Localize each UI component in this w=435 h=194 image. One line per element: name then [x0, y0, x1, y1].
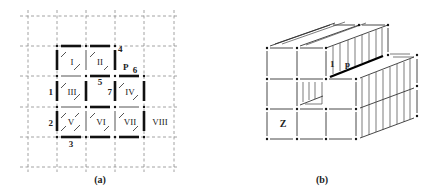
label-z: Z	[280, 118, 287, 129]
figure: I II III IV V VI VII VIII 1 2 3 4 5 6 7 …	[0, 0, 435, 194]
vertex-dots-b	[266, 24, 418, 140]
cell-label-VII: VII	[124, 117, 137, 127]
panel-b-caption: (b)	[316, 174, 328, 186]
lower-right-box	[360, 54, 417, 138]
cell-label-IV: IV	[125, 87, 135, 97]
point-label-p: P	[123, 62, 129, 72]
top-box	[270, 22, 388, 77]
panel-b: 1 p Z (b)	[266, 22, 418, 186]
cell-label-I: I	[71, 57, 74, 67]
label-p: p	[345, 59, 350, 69]
edge-label-4: 4	[118, 44, 123, 54]
edge-label-5: 5	[98, 77, 103, 87]
cell-label-VIII: VIII	[152, 117, 168, 127]
panel-a-caption: (a)	[94, 174, 106, 186]
cell-label-II: II	[97, 57, 103, 67]
edge-label-6: 6	[133, 65, 138, 75]
edge-label-2: 2	[49, 118, 54, 128]
cell-label-VI: VI	[96, 117, 106, 127]
panel-a: I II III IV V VI VII VIII 1 2 3 4 5 6 7 …	[20, 10, 178, 186]
edge-label-7: 7	[108, 87, 113, 97]
notch-interior	[300, 82, 323, 105]
label-1: 1	[330, 59, 335, 69]
cell-label-III: III	[68, 87, 77, 97]
edge-label-1: 1	[49, 87, 54, 97]
cell-label-V: V	[68, 117, 75, 127]
edge-label-3: 3	[69, 139, 74, 149]
